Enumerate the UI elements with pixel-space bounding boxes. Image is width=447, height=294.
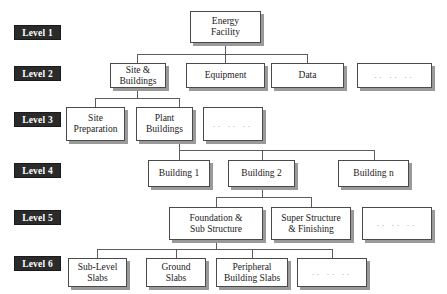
connector-l4-buildingn-drop	[374, 150, 375, 160]
connector-l6-peripheral-drop	[252, 249, 253, 258]
connector-l3-siteprep-drop	[95, 98, 96, 107]
node-plant-buildings[interactable]: Plant Buildings	[136, 107, 193, 141]
node-energy-facility[interactable]: Energy Facility	[190, 11, 261, 43]
connector-l2-data-drop	[307, 54, 308, 63]
connector-l4-building1-drop	[179, 150, 180, 160]
node-foundation-sub-structure[interactable]: Foundation & Sub Structure	[169, 207, 263, 240]
node-level3-more[interactable]: .. .. ..	[203, 107, 263, 141]
node-peripheral-building-slabs[interactable]: Peripheral Building Slabs	[216, 258, 288, 287]
connector-l6-ground-drop	[176, 249, 177, 258]
node-building-2[interactable]: Building 2	[228, 160, 295, 187]
node-data[interactable]: Data	[271, 63, 344, 88]
connector-l4-building2-bottom-drop	[262, 187, 263, 197]
connector-l5-foundation-bottom-drop	[216, 240, 217, 249]
connector-l3-plantbuildings-drop	[179, 98, 180, 107]
level-tag-4: Level 4	[14, 163, 61, 178]
hierarchy-diagram: Level 1 Level 2 Level 3 Level 4 Level 5 …	[0, 0, 447, 294]
node-sub-level-slabs[interactable]: Sub-Level Slabs	[68, 258, 127, 287]
node-level2-more[interactable]: .. .. ..	[357, 63, 432, 88]
node-ground-slabs[interactable]: Ground Slabs	[146, 258, 206, 287]
connector-l6-sublevel-drop	[97, 249, 98, 258]
level-tag-1: Level 1	[14, 25, 61, 40]
node-level6-more[interactable]: .. .. ..	[297, 258, 367, 287]
connector-l3-plant-bus	[179, 150, 374, 151]
node-super-structure-finishing[interactable]: Super Structure & Finishing	[271, 207, 351, 240]
connector-l6-more-drop	[332, 249, 333, 258]
node-level5-more[interactable]: .. .. ..	[362, 207, 432, 240]
connector-l4-building2-bus	[216, 197, 311, 198]
level-tag-6: Level 6	[14, 256, 61, 271]
node-building-1[interactable]: Building 1	[148, 160, 210, 187]
connector-l2-site-bus	[95, 98, 179, 99]
connector-l2-site-bottom-drop	[137, 88, 138, 98]
node-site-and-buildings[interactable]: Site & Buildings	[110, 63, 166, 88]
level-tag-3: Level 3	[14, 112, 61, 127]
connector-l2-equipment-drop	[225, 54, 226, 63]
level-tag-2: Level 2	[14, 66, 61, 81]
node-building-n[interactable]: Building n	[338, 160, 409, 187]
connector-l4-building2-drop	[262, 150, 263, 160]
node-equipment[interactable]: Equipment	[186, 63, 265, 88]
node-site-preparation[interactable]: Site Preparation	[66, 107, 125, 141]
level-tag-5: Level 5	[14, 210, 61, 225]
connector-l2-site-drop	[137, 54, 138, 63]
connector-l1-drop	[225, 43, 226, 54]
connector-l3-plant-bottom-drop	[179, 141, 180, 150]
connector-l1-bus	[137, 54, 308, 55]
connector-l5-superstructure-drop	[311, 197, 312, 207]
connector-l5-foundation-drop	[216, 197, 217, 207]
connector-l5-foundation-bus	[97, 249, 332, 250]
